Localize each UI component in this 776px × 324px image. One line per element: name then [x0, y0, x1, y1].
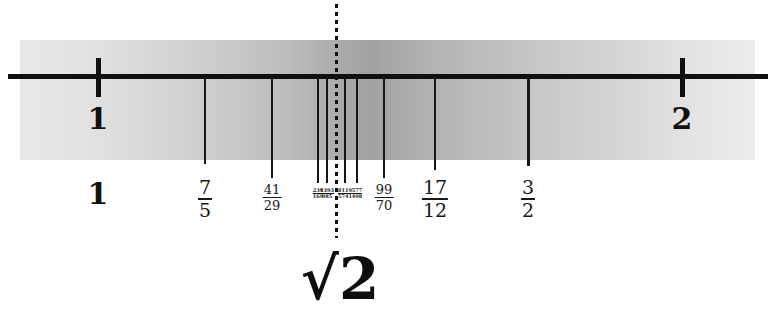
fraction-numerator: 17 [422, 178, 448, 200]
lower-integer-label-one: 1 [88, 176, 109, 211]
fraction-denominator: 408 [352, 194, 362, 199]
number-line-axis [8, 74, 768, 79]
drop-line-2 [317, 78, 319, 183]
fraction-numerator: 99 [375, 183, 394, 198]
fraction-denominator: 70 [375, 198, 394, 212]
fraction-denominator: 12 [422, 200, 448, 220]
drop-line-0 [204, 78, 206, 164]
fraction-denominator: 29 [263, 198, 282, 212]
fraction-numerator: 7 [198, 178, 212, 200]
convergent-label-1393-over-985: 1393985 [320, 188, 334, 199]
shaded-band [20, 40, 755, 160]
drop-line-4 [344, 78, 346, 183]
fraction-denominator: 985 [320, 194, 334, 199]
convergent-label-17-over-12: 1712 [422, 178, 448, 221]
drop-line-1 [271, 78, 273, 178]
convergent-label-577-over-408: 577408 [352, 188, 362, 199]
fraction-numerator: 41 [263, 183, 282, 198]
drop-line-3 [326, 78, 328, 183]
drop-line-7 [434, 78, 436, 170]
drop-line-8 [527, 78, 530, 166]
sqrt2-number-line-figure: 12 1 75412923916913939858119574157740899… [0, 0, 776, 324]
fraction-denominator: 5741 [338, 194, 352, 199]
integer-label-1: 1 [88, 104, 109, 134]
integer-tick-2 [680, 58, 685, 97]
fraction-denominator: 5 [198, 200, 212, 220]
fraction-numerator: 3 [521, 178, 535, 200]
sqrt2-locator-dotted-line [335, 4, 338, 238]
convergent-label-7-over-5: 75 [198, 178, 212, 221]
convergent-label-41-over-29: 4129 [263, 183, 282, 213]
drop-line-6 [383, 78, 385, 178]
fraction-denominator: 2 [521, 200, 535, 220]
integer-tick-1 [96, 58, 101, 97]
integer-label-2: 2 [672, 104, 693, 134]
sqrt2-caption: √2 [301, 250, 379, 308]
convergent-label-3-over-2: 32 [521, 178, 535, 221]
drop-line-5 [356, 78, 358, 183]
convergent-label-8119-over-5741: 81195741 [338, 188, 352, 199]
convergent-label-99-over-70: 9970 [375, 183, 394, 213]
